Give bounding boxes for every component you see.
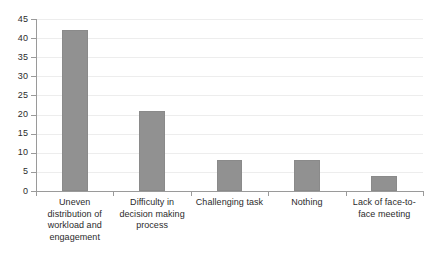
y-tick-label: 35	[4, 53, 28, 62]
y-tick-label: 45	[4, 15, 28, 24]
x-axis-line	[36, 191, 423, 192]
y-tick-label: 15	[4, 129, 28, 138]
bars-layer	[36, 19, 423, 191]
x-tick-label: Difficulty in decision making process	[113, 197, 190, 232]
x-axis-labels: Uneven distribution of workload and enga…	[36, 197, 423, 261]
bar-uneven-distribution-of-workload-and-engagement	[62, 30, 88, 191]
y-tick-label: 0	[4, 187, 28, 196]
y-axis-labels: 45 40 35 30 25 20 15 10 5 0	[0, 0, 28, 264]
bar-nothing	[294, 160, 320, 191]
x-tick-label: Nothing	[268, 197, 345, 209]
y-tick-label: 25	[4, 91, 28, 100]
bar-challenging-task	[217, 160, 243, 191]
y-tick-label: 30	[4, 72, 28, 81]
y-tick-label: 10	[4, 148, 28, 157]
y-tick-label: 20	[4, 110, 28, 119]
x-tick-label: Challenging task	[191, 197, 268, 209]
bar-difficulty-in-decision-making-process	[139, 111, 165, 191]
y-tick-label: 40	[4, 34, 28, 43]
bar-lack-of-face-to-face-meeting	[371, 176, 397, 191]
bar-chart: 45 40 35 30 25 20 15 10 5 0 Uneven distr…	[0, 0, 434, 264]
x-tick-label: Lack of face-to-face meeting	[346, 197, 423, 220]
x-tick-label: Uneven distribution of workload and enga…	[36, 197, 113, 243]
y-tick-label: 5	[4, 167, 28, 176]
